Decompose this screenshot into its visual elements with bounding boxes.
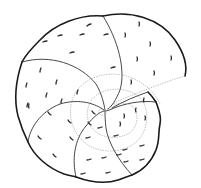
illustration-canvas: Spiral chambered shell (foraminifera) li…	[0, 0, 201, 188]
shell-outline	[16, 14, 186, 182]
shell-drawing	[0, 0, 201, 188]
chamber-sutures	[22, 16, 156, 177]
inner-whorls	[70, 74, 160, 151]
pore-marks	[26, 22, 172, 174]
